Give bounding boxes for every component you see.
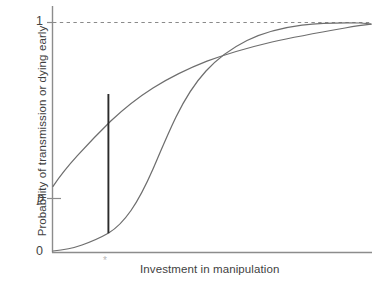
- concave-curve: [53, 24, 371, 186]
- chart-figure: 1 p 0 * Investment in manipulation Proba…: [0, 0, 390, 290]
- y-axis-title: Probability of transmission or dying ear…: [36, 6, 48, 256]
- sigmoid-curve: [53, 23, 371, 251]
- optimum-asterisk-marker: *: [103, 256, 107, 266]
- x-axis-title: Investment in manipulation: [140, 263, 279, 275]
- plot-canvas: [0, 0, 390, 290]
